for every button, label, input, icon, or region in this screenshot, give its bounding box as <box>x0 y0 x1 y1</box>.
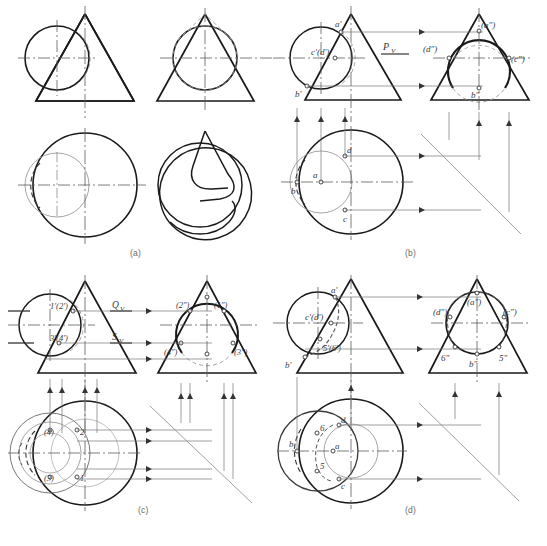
svg-text:b': b' <box>285 360 293 370</box>
svg-text:a': a' <box>331 285 339 295</box>
svg-text:V: V <box>119 337 124 345</box>
panel-c-front-view: 1'(2') 3'(4') QV SV <box>8 275 136 395</box>
panel-d: a' c'(d') b' 5'(6') (a″) <box>273 273 547 521</box>
svg-text:c: c <box>341 481 345 491</box>
svg-text:V: V <box>120 305 125 313</box>
svg-text:b: b <box>291 186 296 196</box>
svg-text:(a″): (a″) <box>467 297 481 307</box>
svg-text:b″: b″ <box>469 359 478 369</box>
panel-d-top-view: d 6 b a 5 c <box>277 395 407 509</box>
svg-text:(4): (4) <box>44 427 54 437</box>
svg-text:c'(d'): c'(d') <box>305 312 323 322</box>
panel-b-top-view: d a b c <box>281 126 413 240</box>
panel-d-caption: (d) <box>405 505 416 515</box>
svg-text:b″: b″ <box>471 90 480 100</box>
panel-a-top-view <box>18 128 146 244</box>
svg-text:c: c <box>343 214 347 224</box>
panel-c: 1'(2') 3'(4') QV SV (2″) (1″) (4 <box>0 273 273 521</box>
panel-c-caption: (c) <box>138 505 149 515</box>
panel-b-caption: (b) <box>405 248 416 258</box>
svg-text:5'(6'): 5'(6') <box>323 343 341 353</box>
panel-a-front-view <box>18 6 134 118</box>
panel-b-projection-lines <box>294 29 521 234</box>
svg-text:5: 5 <box>320 461 325 471</box>
svg-text:d: d <box>341 415 346 425</box>
svg-text:3'(4'): 3'(4') <box>49 333 68 343</box>
panel-c-projection-lines <box>44 308 252 503</box>
panel-a-pictorial-view <box>158 131 252 240</box>
svg-text:1: 1 <box>80 473 84 483</box>
svg-text:(a″): (a″) <box>481 20 495 30</box>
panel-c-side-view: (2″) (1″) (4″) (3″) <box>158 275 258 385</box>
svg-text:(c″): (c″) <box>503 307 517 317</box>
svg-text:(c″): (c″) <box>511 54 525 64</box>
svg-text:a': a' <box>335 19 343 29</box>
svg-text:b: b <box>289 439 294 449</box>
panel-a-side-view <box>157 8 273 110</box>
svg-text:b': b' <box>295 89 303 99</box>
panel-b: a' c'(d') b' PV (a″) (d″) (c″) b″ <box>273 0 547 250</box>
panel-a-caption: (a) <box>130 248 141 258</box>
svg-text:(d″): (d″) <box>423 44 437 54</box>
svg-text:c'(d'): c'(d') <box>311 47 329 57</box>
panel-b-side-view: (a″) (d″) (c″) b″ <box>423 8 531 112</box>
svg-text:(4″): (4″) <box>164 347 178 357</box>
svg-text:d: d <box>347 145 352 155</box>
svg-text:(1″): (1″) <box>214 300 228 310</box>
svg-text:6″: 6″ <box>441 353 450 363</box>
panel-d-front-view: a' c'(d') b' 5'(6') <box>273 275 403 393</box>
panel-b-front-view: a' c'(d') b' PV <box>273 6 409 122</box>
svg-text:(3″): (3″) <box>234 347 248 357</box>
svg-text:a: a <box>335 441 340 451</box>
svg-text:a: a <box>313 170 318 180</box>
panel-c-top-view: (4) 2 (3) 1 <box>8 397 142 511</box>
technical-drawing-figure: (a) a' c'(d') b' PV <box>0 0 547 546</box>
panel-d-side-view: (a″) (d″) (c″) 6″ b″ 5″ <box>429 275 529 385</box>
svg-text:(2″): (2″) <box>176 300 190 310</box>
svg-text:6: 6 <box>320 423 325 433</box>
svg-text:V: V <box>391 47 396 55</box>
panel-a: (a) <box>0 0 273 250</box>
svg-text:(d″): (d″) <box>433 307 447 317</box>
svg-text:P: P <box>382 41 389 52</box>
svg-text:Q: Q <box>112 300 119 310</box>
svg-text:S: S <box>112 332 117 342</box>
svg-text:5″: 5″ <box>499 353 508 363</box>
svg-text:1'(2'): 1'(2') <box>50 301 68 311</box>
svg-text:(3): (3) <box>44 473 54 483</box>
